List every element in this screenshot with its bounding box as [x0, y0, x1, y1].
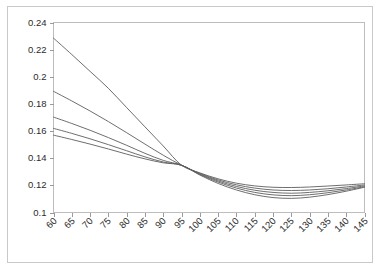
x-tick-label: 110 — [222, 215, 240, 233]
series-line — [54, 128, 365, 195]
x-tick-label: 135 — [314, 215, 333, 234]
plot-wrapper: 0.10.120.140.160.180.20.220.24 606570758… — [0, 0, 380, 270]
x-tick-label: 80 — [117, 215, 132, 230]
y-tick-label: 0.24 — [28, 17, 47, 28]
x-tick-label: 95 — [172, 215, 187, 230]
x-tick-label: 65 — [62, 215, 77, 230]
x-tick-label: 145 — [351, 215, 370, 234]
plot-frame — [54, 23, 365, 213]
figure-container: 0.10.120.140.160.180.20.220.24 606570758… — [0, 0, 380, 270]
y-tick-label: 0.14 — [28, 152, 47, 163]
y-tick-label: 0.18 — [28, 98, 47, 109]
series-line — [54, 38, 365, 187]
x-tick-label: 85 — [135, 215, 150, 230]
data-series-group — [54, 38, 365, 198]
plot-area-border — [54, 23, 365, 213]
line-chart: 0.10.120.140.160.180.20.220.24 606570758… — [0, 0, 380, 270]
x-axis-tick-labels: 6065707580859095100105110115120125130135… — [44, 215, 370, 234]
x-tick-label: 125 — [277, 215, 296, 234]
x-tick-label: 140 — [332, 215, 351, 234]
x-tick-label: 90 — [153, 215, 168, 230]
x-tick-label: 115 — [241, 215, 259, 233]
y-tick-label: 0.12 — [28, 179, 47, 190]
y-tick-label: 0.16 — [28, 125, 47, 136]
series-line — [54, 117, 365, 193]
x-tick-label: 120 — [259, 215, 278, 234]
series-line — [54, 135, 365, 198]
x-tick-label: 75 — [98, 215, 113, 230]
y-tick-label: 0.1 — [33, 207, 46, 218]
x-axis-ticks — [55, 213, 366, 217]
y-tick-label: 0.2 — [33, 71, 46, 82]
x-tick-label: 105 — [204, 215, 223, 234]
y-axis-tick-labels: 0.10.120.140.160.180.20.220.24 — [28, 17, 47, 218]
x-tick-label: 130 — [296, 215, 315, 234]
x-tick-label: 70 — [80, 215, 95, 230]
x-tick-label: 100 — [186, 215, 205, 234]
y-tick-label: 0.22 — [28, 44, 47, 55]
y-axis-ticks — [50, 24, 54, 214]
